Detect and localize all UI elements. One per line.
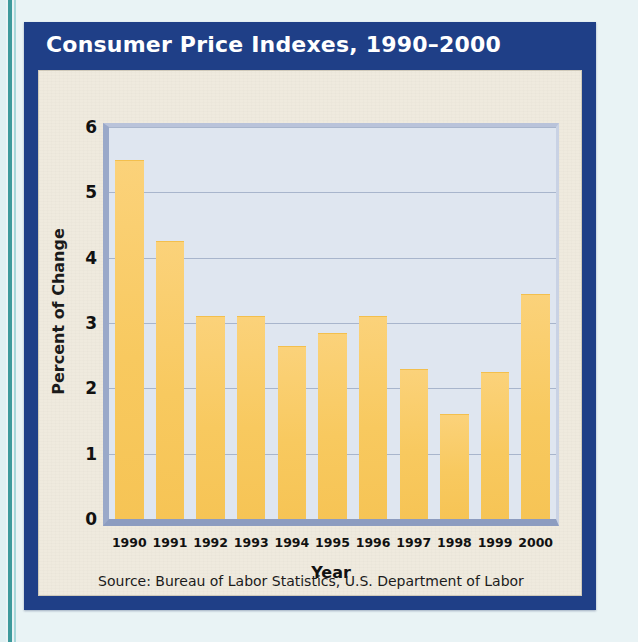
bar (237, 316, 265, 519)
y-axis-title: Percent of Change (45, 191, 71, 431)
gridline (109, 192, 556, 193)
x-axis-tick-label: 1992 (193, 535, 228, 550)
plot-area (109, 127, 556, 519)
chart-paper: Percent of Change 0123456 19901991199219… (38, 70, 582, 596)
bar (440, 414, 468, 519)
bar (481, 372, 509, 519)
bar (115, 160, 143, 519)
x-axis-tick-labels: 1990199119921993199419951996199719981999… (103, 535, 559, 557)
bar (521, 294, 549, 519)
bar (196, 316, 224, 519)
x-axis-tick-label: 1990 (112, 535, 147, 550)
bar (156, 241, 184, 519)
y-axis-tick-label: 0 (85, 509, 97, 529)
figure-title-bar: Consumer Price Indexes, 1990–2000 (24, 22, 596, 66)
bar (318, 333, 346, 519)
x-axis-tick-label: 1993 (234, 535, 269, 550)
y-axis-tick-labels: 0123456 (71, 71, 101, 597)
y-axis-tick-label: 5 (85, 182, 97, 202)
teal-accent-rule-secondary (14, 0, 16, 642)
x-axis-tick-label: 1991 (153, 535, 188, 550)
bar (400, 369, 428, 519)
gridline (109, 127, 556, 128)
y-axis-tick-label: 4 (85, 248, 97, 268)
teal-accent-rule (8, 0, 12, 642)
x-axis-tick-label: 1994 (274, 535, 309, 550)
bar (359, 316, 387, 519)
figure-title: Consumer Price Indexes, 1990–2000 (46, 32, 501, 57)
x-axis-tick-label: 1996 (356, 535, 391, 550)
x-axis-tick-label: 2000 (518, 535, 553, 550)
plot-frame (103, 123, 559, 526)
y-axis-tick-label: 3 (85, 313, 97, 333)
y-axis-tick-label: 1 (85, 444, 97, 464)
figure-frame: Consumer Price Indexes, 1990–2000 Percen… (24, 22, 596, 610)
x-axis-tick-label: 1998 (437, 535, 472, 550)
bar-chart: Percent of Change 0123456 19901991199219… (39, 71, 583, 597)
x-axis-tick-label: 1999 (478, 535, 513, 550)
x-axis-tick-label: 1995 (315, 535, 350, 550)
y-axis-tick-label: 2 (85, 378, 97, 398)
x-axis-tick-label: 1997 (396, 535, 431, 550)
bar (278, 346, 306, 519)
x-axis-title: Year (103, 563, 559, 582)
y-axis-title-text: Percent of Change (49, 228, 68, 395)
y-axis-tick-label: 6 (85, 117, 97, 137)
